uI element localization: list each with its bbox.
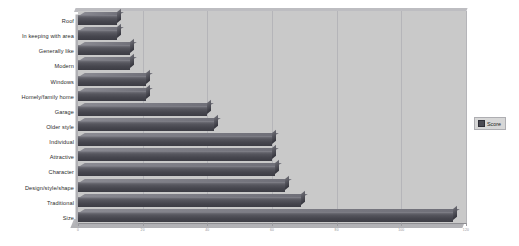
bar-top-face <box>80 209 460 212</box>
bar <box>78 164 279 175</box>
category-label: In keeping with area <box>0 33 74 39</box>
plot-area <box>78 11 466 223</box>
category-label: Windows <box>0 79 74 85</box>
bar-top-face <box>80 57 137 60</box>
bar-body <box>78 30 117 40</box>
bar-chart: RoofIn keeping with areaGenerally likeMo… <box>0 0 519 246</box>
category-label: Character <box>0 169 74 175</box>
bar <box>78 13 121 24</box>
category-label: Individual <box>0 139 74 145</box>
category-label: Homely/family home <box>0 94 74 100</box>
bar-body <box>78 45 130 55</box>
bar-top-face <box>80 42 137 45</box>
bar <box>78 134 276 145</box>
gridline <box>337 11 338 223</box>
bar-end-cap <box>207 100 211 114</box>
gridline <box>401 11 402 223</box>
value-axis-tick-label: 60 <box>270 228 274 232</box>
category-label: Roof <box>0 18 74 24</box>
value-axis-tick <box>207 223 208 226</box>
category-label: Design/style/shape <box>0 185 74 191</box>
bar-end-cap <box>285 175 289 189</box>
gridline <box>466 11 467 223</box>
bar <box>78 43 134 54</box>
bar <box>78 89 150 100</box>
bar-top-face <box>80 88 153 91</box>
bar-body <box>78 151 272 161</box>
bar-top-face <box>80 103 214 106</box>
value-axis-tick <box>466 223 467 226</box>
bar-end-cap <box>301 191 305 205</box>
bar <box>78 104 211 115</box>
value-axis-tick-label: 100 <box>398 228 404 232</box>
bar-end-cap <box>272 130 276 144</box>
chart-legend: Score <box>474 117 506 130</box>
bar-end-cap <box>130 54 134 68</box>
bar-end-cap <box>453 206 457 220</box>
bar-body <box>78 182 285 192</box>
bar-top-face <box>80 179 292 182</box>
bar-body <box>78 136 272 146</box>
bar-end-cap <box>117 9 121 23</box>
value-axis-tick-label: 20 <box>141 228 145 232</box>
legend-label-score: Score <box>487 121 501 127</box>
category-label: Size <box>0 215 74 221</box>
bar <box>78 74 150 85</box>
bar <box>78 119 218 130</box>
bar <box>78 195 305 206</box>
bar-body <box>78 197 301 207</box>
bar-end-cap <box>117 24 121 38</box>
bar-body <box>78 106 207 116</box>
category-label: Attractive <box>0 154 74 160</box>
bar-body <box>78 166 275 176</box>
value-axis-tick-label: 120 <box>463 228 469 232</box>
bar-top-face <box>80 133 279 136</box>
bar-end-cap <box>272 145 276 159</box>
bar-end-cap <box>214 115 218 129</box>
bar-body <box>78 121 214 131</box>
value-axis-tick <box>78 223 79 226</box>
bar-top-face <box>80 118 221 121</box>
value-axis-tick-label: 40 <box>205 228 209 232</box>
category-label: Traditional <box>0 200 74 206</box>
bar-body <box>78 15 117 25</box>
bar-body <box>78 91 146 101</box>
bar-body <box>78 212 453 222</box>
bar <box>78 180 289 191</box>
bar-end-cap <box>130 39 134 53</box>
value-axis-tick <box>272 223 273 226</box>
category-label: Older style <box>0 124 74 130</box>
bar <box>78 149 276 160</box>
bar-body <box>78 76 146 86</box>
category-label: Garage <box>0 109 74 115</box>
bar <box>78 28 121 39</box>
value-axis-tick-label: 80 <box>335 228 339 232</box>
bar-top-face <box>80 163 282 166</box>
bar-end-cap <box>146 85 150 99</box>
value-axis-tick <box>401 223 402 226</box>
value-axis-tick-label: 0 <box>77 228 79 232</box>
bar-top-face <box>80 148 279 151</box>
bar-top-face <box>80 73 153 76</box>
category-label: Generally like <box>0 48 74 54</box>
value-axis-tick <box>143 223 144 226</box>
bar-top-face <box>80 194 308 197</box>
bar-end-cap <box>146 69 150 83</box>
category-label: Modern <box>0 63 74 69</box>
bar-body <box>78 60 130 70</box>
legend-swatch-score <box>478 120 485 127</box>
category-axis: RoofIn keeping with areaGenerally likeMo… <box>0 14 74 222</box>
bar <box>78 58 134 69</box>
bar-end-cap <box>275 160 279 174</box>
bar <box>78 210 457 221</box>
value-axis-tick <box>337 223 338 226</box>
